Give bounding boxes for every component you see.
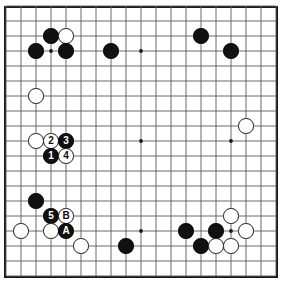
stone-white[interactable] <box>28 133 43 148</box>
stone-black[interactable] <box>43 28 58 43</box>
stone-white-marked-2[interactable]: 2 <box>43 133 58 148</box>
stone-black-marked-5[interactable]: 5 <box>43 208 58 223</box>
stone-black[interactable] <box>223 43 238 58</box>
stone-label: 3 <box>63 136 68 146</box>
stone-white[interactable] <box>238 223 253 238</box>
stone-black[interactable] <box>208 223 223 238</box>
stone-white[interactable] <box>43 223 58 238</box>
stone-white[interactable] <box>28 88 43 103</box>
stone-label: 5 <box>48 211 53 221</box>
go-board-diagram: 23145BA <box>0 0 283 286</box>
stone-label: 2 <box>48 136 53 146</box>
stone-label: 1 <box>48 151 53 161</box>
stone-white[interactable] <box>238 118 253 133</box>
stone-white[interactable] <box>73 238 88 253</box>
stone-white[interactable] <box>208 238 223 253</box>
stone-white[interactable] <box>223 238 238 253</box>
stone-black-marked-3[interactable]: 3 <box>58 133 73 148</box>
stone-label: 4 <box>63 151 68 161</box>
stone-black-marked-1[interactable]: 1 <box>43 148 58 163</box>
stone-black[interactable] <box>103 43 118 58</box>
stone-black[interactable] <box>193 238 208 253</box>
stone-black[interactable] <box>28 43 43 58</box>
stone-black[interactable] <box>28 193 43 208</box>
stone-black-marked-a[interactable]: A <box>58 223 73 238</box>
stone-black[interactable] <box>178 223 193 238</box>
stone-black[interactable] <box>118 238 133 253</box>
stone-white[interactable] <box>58 28 73 43</box>
stone-white-marked-4[interactable]: 4 <box>58 148 73 163</box>
stone-label: B <box>63 211 70 221</box>
stone-white[interactable] <box>223 208 238 223</box>
stone-white[interactable] <box>13 223 28 238</box>
stone-black[interactable] <box>58 43 73 58</box>
stone-label: A <box>63 226 70 236</box>
stone-black[interactable] <box>193 28 208 43</box>
stone-layer: 23145BA <box>0 0 283 286</box>
stone-white-marked-b[interactable]: B <box>58 208 73 223</box>
